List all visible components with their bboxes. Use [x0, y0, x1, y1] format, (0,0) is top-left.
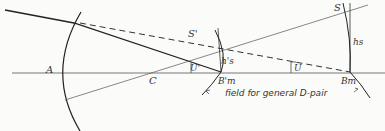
label-s: S [334, 2, 341, 13]
label-u-prime: U' [190, 63, 200, 73]
label-b-m-prime: B'm [217, 76, 236, 86]
caption: field for general D-pair [225, 88, 329, 98]
label-b-m: Bm [340, 76, 356, 86]
label-c: C [149, 75, 157, 86]
label-s-prime: S' [188, 28, 198, 39]
label-h-s-prime: h's [221, 56, 234, 66]
reflected-ray [5, 10, 221, 72]
optics-diagram: A C S' S h's hs U' U B'm Bm field for ge… [0, 0, 385, 131]
diagram-canvas: A C S' S h's hs U' U B'm Bm field for ge… [0, 0, 385, 131]
label-u: U [294, 63, 302, 73]
mirror-arc [63, 12, 81, 131]
chief-ray [65, 5, 368, 100]
label-h-s: hs [353, 37, 364, 47]
label-a: A [45, 64, 53, 75]
